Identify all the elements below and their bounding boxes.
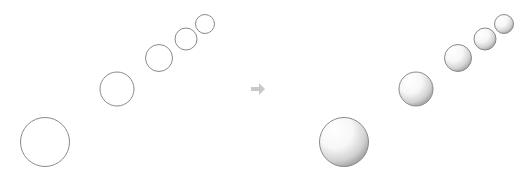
shaded-sphere <box>495 15 514 34</box>
shaded-sphere <box>399 72 433 106</box>
flat-circle <box>196 15 215 34</box>
diagram-canvas <box>0 0 519 176</box>
right-arrow-icon <box>251 83 265 95</box>
shaded-sphere <box>445 45 472 72</box>
shaded-sphere <box>320 118 369 167</box>
shaded-spheres-group <box>320 15 514 167</box>
flat-circle <box>100 72 134 106</box>
flat-circle <box>21 118 70 167</box>
arrow-shape <box>251 83 265 95</box>
flat-circle <box>175 28 197 50</box>
flat-circle <box>146 45 173 72</box>
shaded-sphere <box>474 28 496 50</box>
flat-circles-group <box>21 15 215 167</box>
